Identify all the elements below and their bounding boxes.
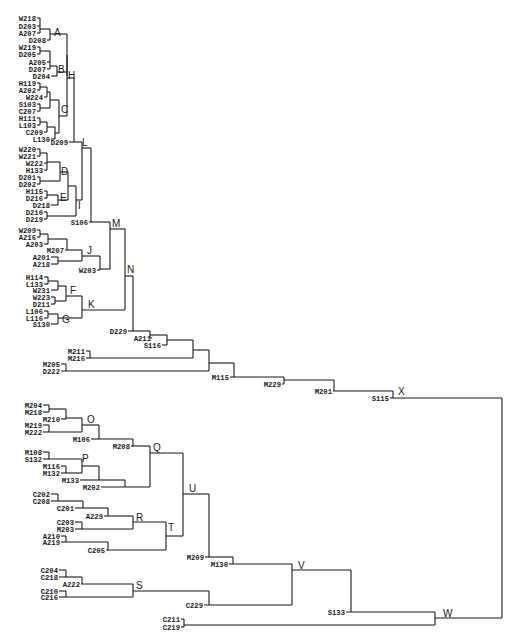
cluster-label: M bbox=[112, 218, 120, 229]
leaf-label: M229 bbox=[264, 381, 281, 389]
leaf-label: C205 bbox=[88, 547, 105, 555]
leaf-label: C219 bbox=[163, 624, 180, 632]
cluster-label: R bbox=[136, 512, 143, 523]
dendrogram: W218D203A207D208W219D205A205D207D204H119… bbox=[0, 0, 520, 641]
leaf-label: M130 bbox=[211, 561, 228, 569]
dendrogram-edges bbox=[37, 18, 502, 627]
cluster-label: X bbox=[398, 386, 405, 397]
leaf-label: S115 bbox=[372, 395, 389, 403]
leaf-label: D205 bbox=[19, 51, 36, 59]
leaf-label: A219 bbox=[43, 539, 60, 547]
leaf-label: S116 bbox=[144, 342, 161, 350]
leaf-label: S133 bbox=[328, 609, 345, 617]
cluster-label: W bbox=[443, 608, 453, 619]
cluster-label: G bbox=[62, 314, 70, 325]
cluster-label: C bbox=[61, 104, 68, 115]
leaf-label: M210 bbox=[43, 416, 60, 424]
leaf-label: S130 bbox=[33, 321, 50, 329]
leaf-label: M209 bbox=[187, 554, 204, 562]
cluster-label: N bbox=[127, 264, 134, 275]
cluster-label: A bbox=[54, 27, 61, 38]
cluster-label: P bbox=[82, 453, 89, 464]
leaf-label: W203 bbox=[79, 267, 96, 275]
cluster-label: V bbox=[298, 560, 305, 571]
leaf-label: D209 bbox=[51, 139, 68, 147]
cluster-label: D bbox=[61, 166, 68, 177]
leaf-label: S132 bbox=[25, 456, 42, 464]
cluster-labels: ABHCLDEIMJNFKGXOQPURTVSW bbox=[54, 27, 453, 619]
cluster-label: B bbox=[58, 64, 65, 75]
cluster-label: E bbox=[60, 192, 67, 203]
leaf-label: D222 bbox=[43, 368, 60, 376]
leaf-label: M222 bbox=[25, 429, 42, 437]
leaf-label: M202 bbox=[83, 484, 100, 492]
cluster-label: O bbox=[87, 414, 95, 425]
leaf-label: D229 bbox=[110, 328, 127, 336]
leaf-label: M216 bbox=[68, 355, 85, 363]
cluster-label: H bbox=[68, 70, 75, 81]
cluster-label: U bbox=[189, 483, 196, 494]
leaf-label: M133 bbox=[62, 477, 79, 485]
leaf-label: M201 bbox=[315, 388, 333, 396]
leaf-label: S106 bbox=[71, 219, 88, 227]
cluster-label: L bbox=[82, 137, 88, 148]
leaf-label: L130 bbox=[33, 136, 50, 144]
leaf-label: M218 bbox=[25, 409, 42, 417]
leaf-label: M208 bbox=[113, 443, 130, 451]
leaf-label: A218 bbox=[33, 261, 50, 269]
leaf-label: A203 bbox=[26, 241, 43, 249]
leaf-label: C216 bbox=[41, 594, 58, 602]
leaf-label: A229 bbox=[86, 513, 103, 521]
leaf-label: C208 bbox=[33, 498, 50, 506]
cluster-label: Q bbox=[153, 442, 161, 453]
leaf-label: C218 bbox=[41, 574, 58, 582]
leaf-label: M132 bbox=[43, 470, 60, 478]
leaf-label: C211 bbox=[163, 616, 181, 624]
leaf-label: C201 bbox=[57, 505, 75, 513]
cluster-label: F bbox=[70, 285, 76, 296]
cluster-label: I bbox=[78, 200, 81, 211]
cluster-label: J bbox=[87, 245, 92, 256]
leaf-label: M115 bbox=[212, 374, 229, 382]
cluster-label: K bbox=[88, 299, 95, 310]
leaf-label: W218 bbox=[19, 15, 36, 23]
leaf-label: M106 bbox=[73, 436, 90, 444]
leaf-label: A222 bbox=[63, 581, 80, 589]
cluster-label: S bbox=[136, 580, 143, 591]
leaf-label: D219 bbox=[26, 216, 43, 224]
leaf-label: C229 bbox=[186, 602, 203, 610]
cluster-label: T bbox=[168, 522, 174, 533]
